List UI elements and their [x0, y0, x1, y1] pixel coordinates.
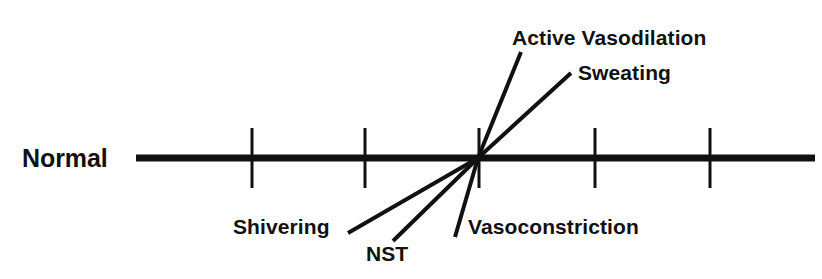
leader-line-group [348, 52, 571, 241]
callout-label-active-vasodilation: Active Vasodilation [512, 27, 706, 48]
callout-label-shivering: Shivering [233, 216, 330, 237]
callout-label-sweating: Sweating [578, 62, 671, 83]
leader-line-sweating [478, 73, 571, 158]
callout-label-vasoconstriction: Vasoconstriction [468, 216, 639, 237]
thermoregulation-diagram: Normal Active Vasodilation Sweating Shiv… [0, 0, 822, 279]
callout-label-nst: NST [366, 243, 408, 264]
baseline-label: Normal [22, 146, 108, 171]
leader-line-active-vasodilation [478, 52, 521, 158]
